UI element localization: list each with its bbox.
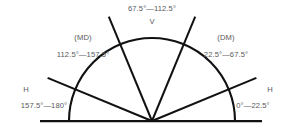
sector-label-md-code: (MD): [74, 33, 91, 43]
diagram-canvas: [0, 0, 295, 134]
sector-label-md-range: 112.5°—157.5°: [57, 50, 109, 60]
angle-sector-diagram: 67.5°—112.5° V (MD) 112.5°—157.5° (DM) 2…: [0, 0, 295, 134]
sector-label-dm-range: 22.5°—67.5°: [204, 50, 248, 60]
sector-label-v-code: V: [149, 17, 154, 27]
sector-label-h-left-code: H: [23, 85, 29, 95]
sector-label-dm-code: (DM): [217, 33, 234, 43]
sector-label-v-range: 67.5°—112.5°: [128, 4, 176, 14]
sector-label-h-right-range: 0°—22.5°: [236, 101, 269, 111]
sector-label-h-left-range: 157.5°—180°: [21, 101, 67, 111]
sector-label-h-right-code: H: [267, 85, 273, 95]
